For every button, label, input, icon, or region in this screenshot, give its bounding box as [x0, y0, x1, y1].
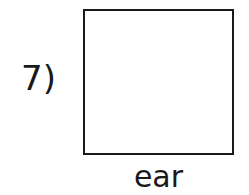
- drawing-box[interactable]: [83, 9, 234, 155]
- item-word: ear: [83, 160, 234, 194]
- item-number: 7): [21, 58, 56, 98]
